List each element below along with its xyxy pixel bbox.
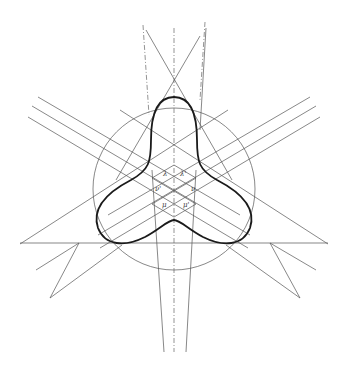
diagram-canvas: λ λ' ν' ν μ μ' bbox=[0, 0, 343, 371]
label-lambda-prime: λ' bbox=[179, 170, 186, 178]
axis-lines bbox=[143, 22, 205, 352]
label-mu-prime: μ' bbox=[183, 201, 190, 209]
trefoil-construction: λ λ' ν' ν μ μ' bbox=[0, 0, 343, 371]
label-nu: ν bbox=[191, 185, 196, 193]
label-lambda: λ bbox=[162, 170, 167, 178]
label-mu: μ bbox=[162, 201, 167, 209]
label-nu-prime: ν' bbox=[155, 185, 161, 193]
